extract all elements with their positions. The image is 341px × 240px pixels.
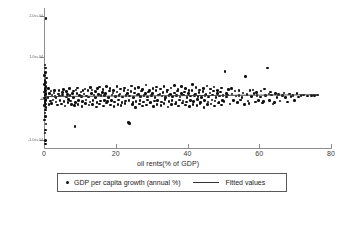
scatter-point xyxy=(198,91,201,94)
scatter-point xyxy=(120,104,123,107)
scatter-point xyxy=(98,103,101,106)
scatter-point xyxy=(167,106,170,109)
scatter-point xyxy=(181,102,184,105)
scatter-point xyxy=(260,90,263,93)
scatter-point xyxy=(121,101,124,104)
scatter-point xyxy=(195,86,198,89)
legend-line-icon xyxy=(193,182,219,183)
scatter-point xyxy=(116,91,119,94)
scatter-point xyxy=(163,102,166,105)
scatter-point xyxy=(123,89,126,92)
scatter-point xyxy=(110,99,113,102)
scatter-point xyxy=(112,92,115,95)
scatter-point xyxy=(279,100,282,103)
scatter-point xyxy=(130,90,133,93)
scatter-point xyxy=(102,88,105,91)
scatter-point xyxy=(177,88,180,91)
scatter-point xyxy=(202,87,205,90)
scatter-point xyxy=(242,92,245,95)
scatter-point xyxy=(248,102,251,105)
scatter-point xyxy=(214,100,217,103)
scatter-point xyxy=(74,125,77,128)
scatter-point xyxy=(94,96,97,99)
scatter-point xyxy=(55,101,58,104)
scatter-point xyxy=(84,102,87,105)
scatter-point xyxy=(109,87,112,90)
scatter-point xyxy=(239,99,242,102)
x-axis-label: oil rents(% of GDP) xyxy=(137,160,199,167)
scatter-point xyxy=(131,103,134,106)
scatter-point xyxy=(104,92,107,95)
scatter-point xyxy=(268,99,271,102)
scatter-point xyxy=(171,99,174,102)
scatter-point xyxy=(141,105,144,108)
scatter-point xyxy=(230,87,233,90)
scatter-point xyxy=(241,96,244,99)
scatter-point xyxy=(53,89,56,92)
legend-item-fit: Fitted values xyxy=(180,179,265,186)
scatter-point xyxy=(91,89,94,92)
scatter-point xyxy=(73,104,76,107)
scatter-point xyxy=(238,89,241,92)
scatter-point xyxy=(263,88,266,91)
scatter-point xyxy=(44,67,47,70)
scatter-point xyxy=(186,96,189,99)
scatter-point xyxy=(45,123,48,126)
scatter-point xyxy=(44,129,47,132)
scatter-point xyxy=(213,86,216,89)
scatter-point xyxy=(68,87,71,90)
scatter-point xyxy=(152,105,155,108)
scatter-point xyxy=(69,100,72,103)
scatter-point xyxy=(113,101,116,104)
scatter-point xyxy=(174,103,177,106)
scatter-point xyxy=(236,101,239,104)
scatter-point xyxy=(170,87,173,90)
scatter-point xyxy=(276,96,279,99)
legend-label-fit: Fitted values xyxy=(225,179,265,186)
scatter-point xyxy=(243,103,246,106)
scatter-point xyxy=(139,99,142,102)
scatter-point xyxy=(286,101,289,104)
scatter-point xyxy=(52,99,55,102)
scatter-point xyxy=(266,67,269,70)
scatter-point xyxy=(249,89,252,92)
scatter-point xyxy=(202,90,205,93)
scatter-point xyxy=(134,106,137,109)
scatter-point xyxy=(146,99,149,102)
scatter-point xyxy=(149,102,152,105)
scatter-point xyxy=(81,105,84,108)
scatter-point xyxy=(116,85,119,88)
scatter-point xyxy=(117,103,120,106)
legend-item-scatter: GDP per capita growth (annual %) xyxy=(58,179,180,186)
scatter-point xyxy=(223,100,226,103)
scatter-point xyxy=(183,91,186,94)
scatter-point xyxy=(145,84,148,87)
scatter-point xyxy=(60,103,63,106)
scatter-point xyxy=(44,132,47,135)
scatter-point xyxy=(88,104,91,107)
scatter-point xyxy=(215,96,218,99)
scatter-point xyxy=(191,89,194,92)
scatter-point xyxy=(210,103,213,106)
scatter-point xyxy=(164,96,167,99)
scatter-point xyxy=(284,96,287,99)
scatter-point xyxy=(203,99,206,102)
scatter-point xyxy=(180,85,183,88)
scatter-point xyxy=(152,87,155,90)
scatter-point xyxy=(196,104,199,107)
scatter-point xyxy=(155,89,158,92)
scatter-point xyxy=(87,89,90,92)
scatter-point xyxy=(71,92,74,95)
scatter-point xyxy=(217,102,220,105)
scatter-point xyxy=(91,103,94,106)
scatter-point xyxy=(148,89,151,92)
scatter-point xyxy=(112,89,115,92)
scatter-point xyxy=(43,119,46,122)
scatter-point xyxy=(293,99,296,102)
scatter-point xyxy=(76,87,79,90)
scatter-point xyxy=(262,100,265,103)
scatter-point xyxy=(113,105,116,108)
scatter-point xyxy=(75,89,78,92)
scatter-point xyxy=(191,83,194,86)
scatter-point xyxy=(163,85,166,88)
